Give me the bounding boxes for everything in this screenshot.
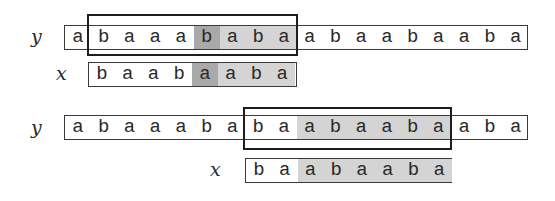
char-cell: a	[503, 116, 529, 139]
char-cell: a	[142, 26, 168, 49]
top-y-label: y	[31, 27, 42, 46]
char-cell: a	[426, 159, 452, 182]
char-cell: a	[375, 159, 401, 182]
char-cell: a	[65, 26, 91, 49]
char-cell: b	[400, 116, 426, 139]
char-cell: a	[220, 116, 246, 139]
char-cell: a	[271, 26, 297, 49]
char-cell: b	[323, 159, 349, 182]
char-cell: a	[297, 26, 323, 49]
char-cell: b	[246, 159, 272, 182]
char-cell: a	[349, 159, 375, 182]
char-cell: b	[245, 116, 271, 139]
char-cell: a	[298, 159, 324, 182]
char-cell: b	[401, 159, 427, 182]
char-cell: a	[218, 63, 244, 86]
bottom-x-pattern: baabaaba	[245, 158, 452, 183]
char-cell: a	[271, 116, 297, 139]
char-cell: a	[348, 116, 374, 139]
char-cell: a	[426, 26, 452, 49]
char-cell: a	[451, 116, 477, 139]
char-cell: a	[168, 26, 194, 49]
char-cell: b	[91, 26, 117, 49]
bottom-y-label: y	[31, 118, 42, 137]
char-cell: b	[477, 26, 503, 49]
char-cell: a	[348, 26, 374, 49]
char-cell: a	[192, 63, 218, 86]
char-cell: a	[168, 116, 194, 139]
char-cell: a	[115, 63, 141, 86]
char-cell: a	[65, 116, 91, 139]
top-x-pattern: baabaaba	[88, 62, 297, 87]
char-cell: a	[426, 116, 452, 139]
top-y-string: abaaababaabaabaaba	[64, 25, 528, 50]
char-cell: a	[451, 26, 477, 49]
char-cell: b	[91, 116, 117, 139]
char-cell: a	[503, 26, 529, 49]
char-cell: b	[166, 63, 192, 86]
char-cell: a	[297, 116, 323, 139]
char-cell: a	[220, 26, 246, 49]
char-cell: b	[323, 26, 349, 49]
char-cell: b	[244, 63, 270, 86]
char-cell: a	[142, 116, 168, 139]
char-cell: b	[400, 26, 426, 49]
char-cell: b	[194, 26, 220, 49]
char-cell: a	[374, 116, 400, 139]
char-cell: a	[141, 63, 167, 86]
char-cell: a	[117, 116, 143, 139]
top-x-label: x	[56, 64, 67, 83]
char-cell: a	[374, 26, 400, 49]
char-cell: b	[89, 63, 115, 86]
bottom-y-string: abaaababaabaabaaba	[64, 115, 528, 140]
char-cell: b	[194, 116, 220, 139]
char-cell: b	[477, 116, 503, 139]
char-cell: b	[245, 26, 271, 49]
bottom-x-label: x	[210, 160, 221, 179]
char-cell: a	[117, 26, 143, 49]
char-cell: a	[269, 63, 295, 86]
char-cell: a	[272, 159, 298, 182]
char-cell: b	[323, 116, 349, 139]
